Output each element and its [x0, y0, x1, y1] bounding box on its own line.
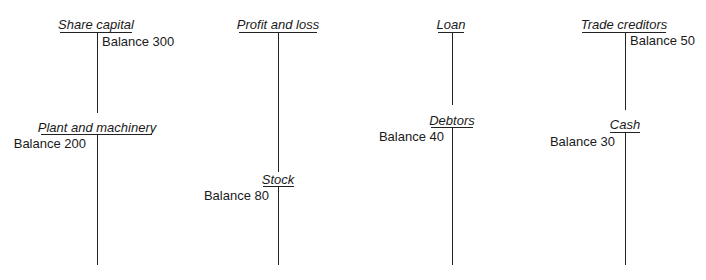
t-account-divider [625, 32, 626, 110]
account-title: Profit and loss [237, 17, 319, 32]
t-account-divider [278, 186, 279, 265]
account-title: Loan [437, 17, 466, 32]
t-account-divider [278, 32, 279, 172]
account-title: Plant and machinery [38, 120, 157, 135]
t-account-divider [97, 32, 98, 113]
account-title: Trade creditors [581, 17, 667, 32]
title-underline [438, 32, 464, 33]
title-underline [60, 32, 132, 33]
balance-label: Balance 300 [102, 34, 174, 49]
balance-label: Balance 40 [379, 129, 444, 144]
account-title: Share capital [58, 17, 134, 32]
t-account-divider [625, 132, 626, 265]
balance-label: Balance 80 [204, 188, 269, 203]
account-title: Debtors [429, 113, 475, 128]
t-account-divider [97, 134, 98, 265]
balance-label: Balance 200 [14, 136, 86, 151]
t-account-divider [452, 127, 453, 265]
balance-label: Balance 30 [550, 134, 615, 149]
t-account-divider [452, 32, 453, 105]
account-title: Cash [610, 117, 640, 132]
balance-label: Balance 50 [630, 33, 695, 48]
account-title: Stock [262, 172, 295, 187]
